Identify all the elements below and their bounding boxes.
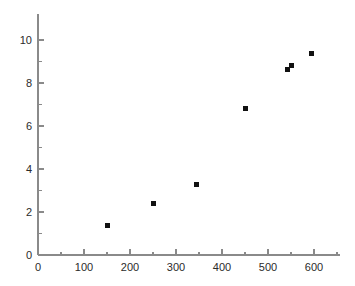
x-axis-tick-label: 0 (35, 261, 41, 273)
data-point-marker (194, 182, 199, 187)
y-axis-tick-label: 10 (20, 34, 32, 46)
y-axis-tick-label: 6 (26, 120, 32, 132)
x-axis-tick-label: 200 (121, 261, 139, 273)
x-axis-tick-label: 300 (167, 261, 185, 273)
data-series (105, 51, 315, 228)
y-axis-tick-label: 0 (26, 249, 32, 261)
data-point-marker (105, 223, 110, 228)
data-point-marker (151, 201, 156, 206)
y-axis-tick-label: 4 (26, 163, 32, 175)
data-point-marker (309, 51, 314, 56)
plot-area: 01002003004005006000246810 (0, 0, 355, 286)
x-axis-tick-label: 100 (75, 261, 93, 273)
data-point-marker (243, 106, 248, 111)
x-axis-tick-label: 400 (213, 261, 231, 273)
x-axis-tick-label: 600 (305, 261, 323, 273)
data-point-marker (289, 63, 294, 68)
x-axis-tick-label: 500 (259, 261, 277, 273)
y-axis-tick-label: 8 (26, 77, 32, 89)
y-axis-tick-label: 2 (26, 206, 32, 218)
scatter-chart: 01002003004005006000246810 (0, 0, 355, 286)
